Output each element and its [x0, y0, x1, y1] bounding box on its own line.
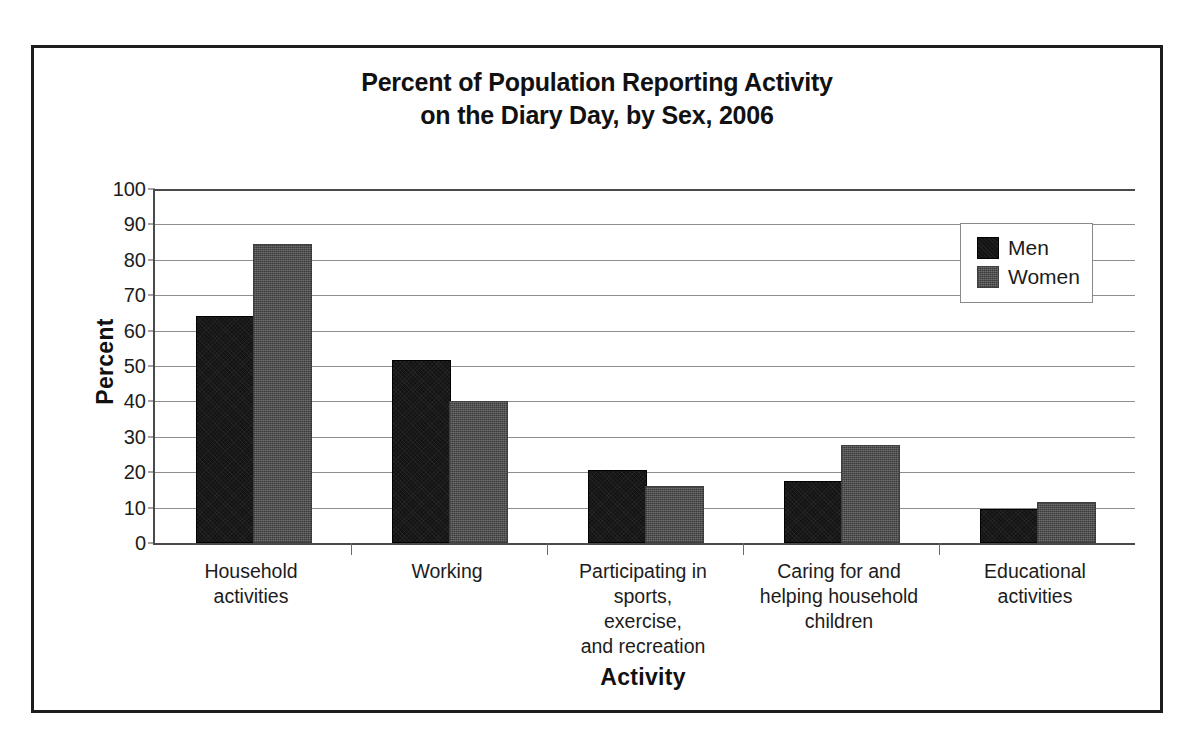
legend-item-men: Men: [977, 233, 1092, 262]
bar-women-4: [1037, 502, 1096, 543]
bar-women-3: [841, 445, 900, 543]
legend-label-women: Women: [1008, 265, 1080, 289]
bar-women-1: [449, 401, 508, 543]
x-axis-category-label: Working: [349, 559, 545, 584]
chart-legend: Men Women: [960, 223, 1093, 303]
y-axis-tick-mark: [148, 259, 155, 260]
x-axis-label-line: Participating in: [545, 559, 741, 584]
gridline: [155, 189, 1135, 191]
legend-item-women: Women: [977, 262, 1092, 291]
y-axis-tick-label: 0: [135, 532, 146, 555]
x-axis-label-line: Educational: [937, 559, 1133, 584]
y-axis-tick-label: 100: [113, 178, 146, 201]
y-axis-tick-mark: [148, 366, 155, 367]
bar-men-0: [196, 316, 255, 543]
x-axis-label-line: Working: [349, 559, 545, 584]
y-axis-tick-mark: [148, 224, 155, 225]
bar-men-1: [392, 360, 451, 543]
x-axis-category-label: Householdactivities: [153, 559, 349, 609]
x-axis-label-line: and recreation: [545, 634, 741, 659]
x-axis-title: Activity: [153, 664, 1133, 691]
x-axis-label-line: sports,: [545, 584, 741, 609]
x-axis-label-line: Household: [153, 559, 349, 584]
y-axis-tick-mark: [148, 330, 155, 331]
x-axis-category-label: Caring for andhelping householdchildren: [741, 559, 937, 634]
x-axis-category-label: Participating insports,exercise,and recr…: [545, 559, 741, 659]
bar-men-2: [588, 470, 647, 543]
y-axis-tick-label: 40: [124, 390, 146, 413]
chart-frame: Percent of Population Reporting Activity…: [31, 45, 1163, 713]
x-axis-label-line: activities: [153, 584, 349, 609]
x-axis-label-line: exercise,: [545, 609, 741, 634]
y-axis-tick-label: 20: [124, 461, 146, 484]
x-axis-category-label: Educationalactivities: [937, 559, 1133, 609]
y-axis-tick-label: 30: [124, 425, 146, 448]
y-axis-tick-label: 10: [124, 496, 146, 519]
x-axis-label-line: children: [741, 609, 937, 634]
x-axis-label-line: helping household: [741, 584, 937, 609]
bar-women-2: [645, 486, 704, 543]
x-axis-tick-mark: [547, 543, 548, 555]
x-axis-label-line: Caring for and: [741, 559, 937, 584]
y-axis-tick-label: 80: [124, 248, 146, 271]
chart-title-line-1: Percent of Population Reporting Activity: [34, 66, 1160, 99]
x-axis-label-line: activities: [937, 584, 1133, 609]
x-axis-tick-mark: [939, 543, 940, 555]
y-axis-tick-mark: [148, 189, 155, 190]
chart-title: Percent of Population Reporting Activity…: [34, 66, 1160, 132]
y-axis-tick-mark: [148, 507, 155, 508]
y-axis-tick-mark: [148, 295, 155, 296]
legend-swatch-women-icon: [977, 266, 999, 288]
legend-swatch-men-icon: [977, 237, 999, 259]
bar-men-3: [784, 481, 843, 543]
bar-women-0: [253, 244, 312, 543]
y-axis-tick-label: 50: [124, 355, 146, 378]
y-axis-tick-label: 90: [124, 213, 146, 236]
y-axis-title: Percent: [92, 282, 119, 442]
bar-men-4: [980, 509, 1039, 543]
legend-label-men: Men: [1008, 236, 1049, 260]
y-axis-tick-mark: [148, 401, 155, 402]
y-axis-tick-mark: [148, 436, 155, 437]
y-axis-tick-label: 70: [124, 284, 146, 307]
y-axis-tick-mark: [148, 472, 155, 473]
x-axis-tick-mark: [743, 543, 744, 555]
y-axis-tick-mark: [148, 543, 155, 544]
y-axis-tick-label: 60: [124, 319, 146, 342]
x-axis-tick-mark: [351, 543, 352, 555]
chart-title-line-2: on the Diary Day, by Sex, 2006: [34, 99, 1160, 132]
